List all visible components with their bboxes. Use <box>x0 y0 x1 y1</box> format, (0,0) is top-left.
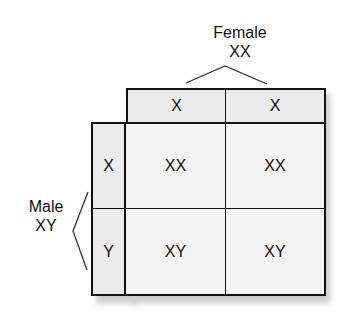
offspring-cell: XY <box>126 209 226 296</box>
offspring-genotype: XX <box>264 157 285 175</box>
offspring-genotype: XY <box>264 243 285 261</box>
offspring-cell: XX <box>126 122 226 209</box>
row-header-2: Y <box>91 209 126 296</box>
column-allele: X <box>171 97 182 115</box>
offspring-cell: XY <box>226 209 326 296</box>
row-allele: Y <box>103 243 114 261</box>
column-allele: X <box>270 97 281 115</box>
row-header-1: X <box>91 122 126 209</box>
row-allele: X <box>103 157 114 175</box>
offspring-genotype: XY <box>165 243 186 261</box>
male-bracket <box>73 192 88 270</box>
female-bracket <box>186 66 267 84</box>
column-header-1: X <box>126 88 226 122</box>
column-header-2: X <box>226 88 326 122</box>
offspring-genotype: XX <box>165 157 186 175</box>
offspring-cell: XX <box>226 122 326 209</box>
